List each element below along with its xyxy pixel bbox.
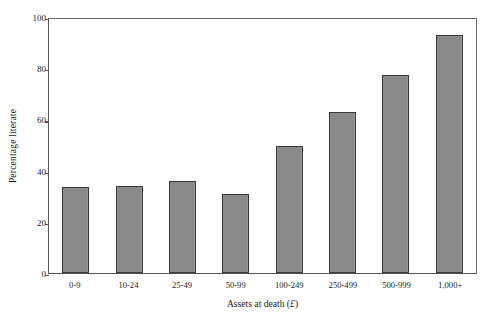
bar-slot [156,19,209,273]
x-axis-title-text: Assets at death ( [227,298,290,309]
bar-slot [209,19,262,273]
y-axis-tick-labels: 020406080100 [22,0,46,330]
bar-10-24 [116,186,143,273]
y-axis-title: Percentage literate [8,109,18,183]
y-axis-tick-label: 60 [22,115,46,125]
bar-25-49 [169,181,196,273]
plot-area [48,18,477,274]
x-axis-tick-label: 100-249 [263,280,317,296]
bar-slot [316,19,369,273]
y-axis-tick-mark [45,173,49,174]
bar-slot [263,19,316,273]
y-axis-tick-mark [45,70,49,71]
x-axis-tick-label: 250-499 [316,280,370,296]
bar-slot [423,19,476,273]
y-axis-tick-mark [45,121,49,122]
x-axis-title-close-paren: ) [295,298,298,309]
bar-1,000+ [436,35,463,273]
y-axis-tick-mark [45,19,49,20]
x-axis-tick-label: 50-99 [209,280,263,296]
x-axis-tick-label: 25-49 [155,280,209,296]
y-axis-tick-label: 100 [22,13,46,23]
y-axis-tick-mark [45,224,49,225]
bar-250-499 [329,112,356,273]
y-axis-tick-label: 40 [22,167,46,177]
y-axis-tick-label: 0 [22,269,46,279]
bar-slot [102,19,155,273]
x-axis-tick-label: 10-24 [102,280,156,296]
x-axis-tick-label: 1,000+ [423,280,477,296]
x-axis-tick-label: 500-999 [370,280,424,296]
bar-slot [369,19,422,273]
x-axis-tick-labels: 0-910-2425-4950-99100-249250-499500-9991… [48,280,477,296]
x-axis-tick-label: 0-9 [48,280,102,296]
bar-50-99 [222,194,249,273]
y-axis-tick-label: 80 [22,64,46,74]
x-axis-title: Assets at death (£) [48,298,477,309]
bar-series [49,19,476,273]
bar-chart-figure: Percentage literate 020406080100 0-910-2… [0,0,491,330]
bar-500-999 [382,75,409,273]
bar-slot [49,19,102,273]
y-axis-tick-label: 20 [22,218,46,228]
bar-0-9 [62,187,89,273]
y-axis-tick-mark [45,275,49,276]
bar-100-249 [276,146,303,273]
